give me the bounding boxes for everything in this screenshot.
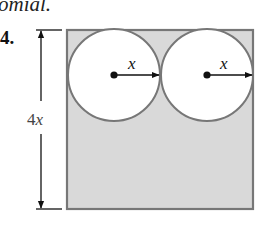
geometry-figure: x x 4x bbox=[0, 0, 259, 251]
height-label: 4x bbox=[27, 110, 44, 129]
right-radius-label: x bbox=[219, 54, 228, 73]
left-radius-label: x bbox=[127, 54, 136, 73]
